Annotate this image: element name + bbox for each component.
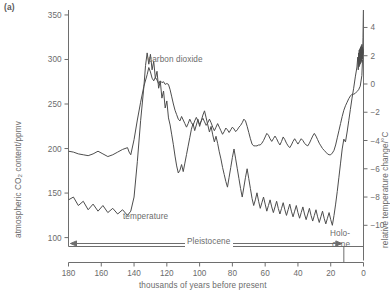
x-tick-label-160: 160 (94, 269, 108, 278)
series-label-carbon-dioxide: carbon dioxide (148, 55, 203, 64)
panel-label: (a) (4, 2, 15, 12)
x-tick-label-180: 180 (62, 269, 76, 278)
epoch-label-holocene-line1: Holo- (330, 229, 350, 238)
y-tick-label-250: 250 (48, 100, 62, 109)
y2-tick-label-0: 0 (371, 80, 376, 89)
x-tick-label-20: 20 (326, 269, 336, 278)
y2-tick-label--8: −8 (371, 193, 381, 202)
y2-tick-label--6: −6 (371, 165, 381, 174)
y-tick-label-300: 300 (48, 55, 62, 64)
epoch-label-pleistocene: Pleistocene (187, 237, 230, 246)
x-tick-label-40: 40 (293, 269, 303, 278)
epoch-label-holocene-line2: cene (332, 240, 350, 249)
y2-tick-label--4: −4 (371, 137, 381, 146)
y-tick-label-100: 100 (48, 234, 62, 243)
y2-tick-label-4: 4 (371, 23, 376, 32)
x-tick-label-80: 80 (228, 269, 238, 278)
y2-tick-label-2: 2 (371, 52, 376, 61)
x-tick-label-140: 140 (127, 269, 141, 278)
x-axis-title: thousands of years before present (139, 281, 267, 290)
series-line-carbon-dioxide (69, 0, 364, 157)
x-tick-label-60: 60 (261, 269, 271, 278)
y-tick-label-200: 200 (48, 145, 62, 154)
y-axis-title: atmospheric CO2 content/ppmv (14, 121, 23, 238)
pleistocene-arrow-head-left (71, 241, 77, 246)
y-tick-label-350: 350 (48, 11, 62, 20)
y-tick-label-150: 150 (48, 189, 62, 198)
x-tick-label-100: 100 (193, 269, 207, 278)
series-line-temperature (69, 44, 364, 225)
x-tick-label-120: 120 (160, 269, 174, 278)
series-label-temperature: temperature (123, 212, 168, 221)
y2-tick-label--2: −2 (371, 108, 381, 117)
x-tick-label-0: 0 (361, 269, 366, 278)
y2-axis-title: relative temperature change/°C (381, 132, 390, 248)
